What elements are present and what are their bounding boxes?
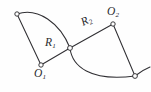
geometry-canvas	[0, 0, 151, 92]
node-center-o2	[111, 22, 115, 26]
node-arc-start	[15, 12, 19, 16]
radius-o2-b	[113, 24, 135, 76]
geometry-figure: R1 R2 O1 O2	[0, 0, 151, 92]
label-radius-1-base: R	[45, 36, 52, 48]
radius-o2-t	[70, 24, 113, 48]
label-center-1: O1	[34, 68, 46, 81]
radius-o1-t	[41, 48, 70, 65]
label-center-1-subscript: 1	[42, 73, 46, 81]
node-tangent-junction	[68, 46, 73, 51]
label-radius-1: R1	[45, 37, 56, 50]
radius-o1-a	[17, 14, 41, 65]
node-arc-end	[133, 74, 138, 79]
label-center-2: O2	[107, 6, 119, 19]
label-center-2-subscript: 2	[115, 11, 119, 19]
label-radius-1-subscript: 1	[52, 42, 56, 50]
